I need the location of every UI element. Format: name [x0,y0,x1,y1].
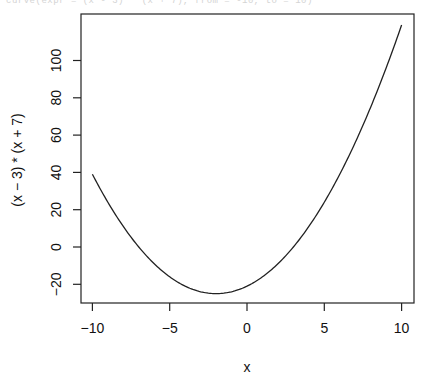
x-tick-label: 5 [320,320,328,336]
y-tick-label: −20 [48,272,64,296]
x-tick-label: −10 [81,320,105,336]
y-tick-label: 20 [48,202,64,218]
x-axis-label: x [244,359,251,375]
y-tick-label: 60 [48,127,64,143]
y-tick-label: 100 [48,49,64,73]
x-tick-label: 10 [394,320,410,336]
x-tick-label: 0 [243,320,251,336]
y-tick-label: 40 [48,164,64,180]
x-tick-label: −5 [162,320,178,336]
function-curve [92,25,401,294]
y-axis: −20020406080100 [48,49,81,297]
plot-box [81,14,414,303]
line-chart: −10−50510 −20020406080100 x (x − 3) * (x… [0,0,426,382]
y-tick-label: 80 [48,90,64,106]
y-tick-label: 0 [48,243,64,251]
y-axis-label: (x − 3) * (x + 7) [9,113,25,206]
x-axis: −10−50510 [81,303,410,336]
